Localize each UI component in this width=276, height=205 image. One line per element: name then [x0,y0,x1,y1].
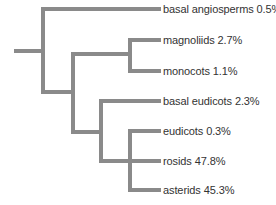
leaf-label-rosids: rosids 47.8% [163,155,225,167]
leaf-label-basal-eudicots: basal eudicots 2.3% [163,95,260,107]
leaf-label-eudicots: eudicots 0.3% [163,125,231,137]
leaf-label-magnoliids: magnoliids 2.7% [163,34,242,46]
leaf-label-asterids: asterids 45.3% [163,184,234,196]
leaf-label-monocots: monocots 1.1% [163,65,238,77]
leaf-label-basal-angiosperms: basal angiosperms 0.5% [163,3,276,15]
